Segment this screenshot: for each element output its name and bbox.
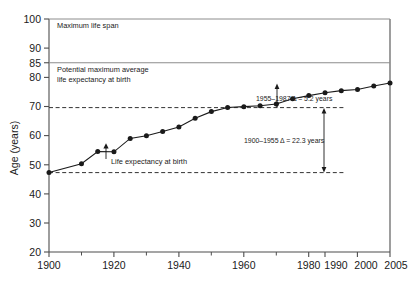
y-tick-label-70: 70 bbox=[29, 100, 41, 112]
data-point bbox=[176, 125, 181, 130]
x-tick-label-1900: 1900 bbox=[37, 259, 61, 271]
data-point bbox=[258, 103, 263, 108]
y-tick-label-20: 20 bbox=[29, 246, 41, 258]
y-tick-label-80: 80 bbox=[29, 71, 41, 83]
y-tick-label-50: 50 bbox=[29, 159, 41, 171]
chart-canvas: 100 90 85 80 70 60 50 40 30 20 bbox=[0, 0, 420, 287]
series-callout-label: Life expectancy at birth bbox=[111, 157, 187, 166]
data-point bbox=[388, 81, 393, 86]
data-point bbox=[241, 104, 246, 109]
chart-background bbox=[0, 0, 420, 287]
potential-maximum-label-line2: life expectancy at birth bbox=[57, 75, 131, 84]
y-tick-label-30: 30 bbox=[29, 217, 41, 229]
data-point bbox=[355, 87, 360, 92]
y-tick-label-85: 85 bbox=[29, 57, 41, 69]
delta-1955-1987-label: 1955–1987 Δ = 5.2 years bbox=[256, 95, 333, 103]
data-point bbox=[160, 129, 165, 134]
data-point bbox=[209, 109, 214, 114]
data-point bbox=[144, 133, 149, 138]
data-point bbox=[128, 136, 133, 141]
data-point bbox=[47, 170, 52, 175]
x-tick-label-1980: 1980 bbox=[297, 259, 321, 271]
x-tick-label-1940: 1940 bbox=[167, 259, 191, 271]
potential-maximum-label-line1: Potential maximum average bbox=[57, 65, 149, 74]
data-point bbox=[95, 149, 100, 154]
x-tick-label-1990: 1990 bbox=[324, 259, 348, 271]
data-point bbox=[111, 149, 116, 154]
x-tick-label-2000: 2000 bbox=[354, 259, 378, 271]
y-tick-label-40: 40 bbox=[29, 188, 41, 200]
x-tick-label-1920: 1920 bbox=[102, 259, 126, 271]
x-tick-label-2005: 2005 bbox=[384, 259, 408, 271]
y-tick-label-60: 60 bbox=[29, 129, 41, 141]
data-point bbox=[193, 116, 198, 121]
data-point bbox=[79, 161, 84, 166]
y-axis-title: Age (years) bbox=[8, 121, 20, 175]
delta-1900-1955-label: 1900–1955 Δ = 22.3 years bbox=[244, 137, 325, 145]
data-point bbox=[225, 105, 230, 110]
maximum-life-span-label: Maximum life span bbox=[57, 21, 119, 30]
y-tick-label-100: 100 bbox=[23, 13, 41, 25]
data-point bbox=[371, 83, 376, 88]
y-tick-label-90: 90 bbox=[29, 42, 41, 54]
data-point bbox=[339, 88, 344, 93]
life-expectancy-chart: 100 90 85 80 70 60 50 40 30 20 bbox=[0, 0, 420, 287]
x-tick-label-1960: 1960 bbox=[232, 259, 256, 271]
